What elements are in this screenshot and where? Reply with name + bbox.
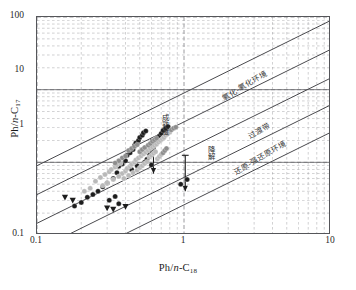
y-title-prefix: Ph/ — [9, 123, 20, 138]
y-title-suffix: -C — [9, 107, 20, 118]
x-axis-title: Ph/n-C18 — [0, 262, 356, 275]
chart-figure: 100 10 1 0.1 0.1 1 10 氧化-氧化环境 过渡带 还原-强还原… — [0, 0, 356, 290]
arrow-label-maturity: 成熟度 — [161, 113, 169, 134]
plot-clip: 氧化-氧化环境 过渡带 还原-强还原环境 成熟度 降解 — [37, 17, 329, 233]
y-tick-label: 100 — [0, 11, 24, 21]
y-title-subscript: 17 — [14, 99, 22, 106]
x-title-prefix: Ph/ — [159, 262, 174, 273]
arrow-label-degradation: 降解 — [207, 145, 215, 159]
x-tick-label: 0.1 — [16, 236, 56, 246]
plot-graphics — [37, 17, 329, 233]
x-title-suffix: -C — [179, 262, 190, 273]
x-tick-label: 10 — [310, 236, 350, 246]
plot-area: 氧化-氧化环境 过渡带 还原-强还原环境 成熟度 降解 — [36, 16, 330, 234]
x-title-subscript: 18 — [190, 267, 197, 275]
y-title-italic: n — [9, 118, 20, 123]
y-axis-title: Ph/n-C17 — [9, 59, 22, 179]
x-tick-label: 1 — [163, 236, 203, 246]
